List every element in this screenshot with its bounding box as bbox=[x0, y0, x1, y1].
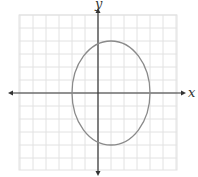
x-axis-left-arrow-icon bbox=[8, 91, 13, 96]
y-axis-label: y bbox=[94, 0, 103, 11]
x-axis-right-arrow-icon bbox=[181, 91, 186, 96]
x-axis-label: x bbox=[188, 85, 196, 100]
y-axis-down-arrow-icon bbox=[96, 171, 101, 176]
axes bbox=[8, 8, 186, 176]
ellipse-graph: x y bbox=[0, 0, 198, 177]
